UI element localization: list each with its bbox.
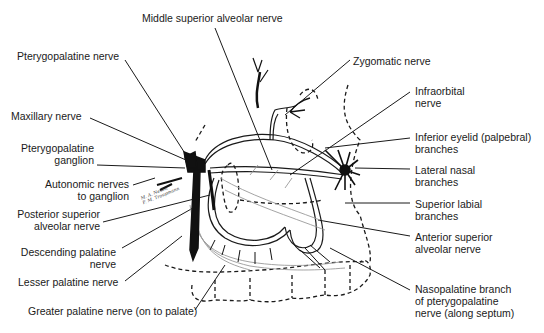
label-line: Lateral nasal — [415, 164, 475, 176]
nerve-trunks — [205, 106, 345, 253]
label-line: Descending palatine — [21, 246, 116, 258]
label-infraorbital-nerve: Infraorbital nerve — [415, 85, 465, 109]
label-line: nerve — [415, 97, 465, 109]
label-greater-palatine-nerve: Greater palatine nerve (on to palate) — [28, 305, 197, 317]
label-line: branches — [415, 210, 482, 222]
label-line: ganglion — [21, 154, 94, 166]
label-line: Anterior superior — [415, 231, 493, 243]
label-descending-palatine-nerve: Descending palatine nerve — [21, 246, 116, 270]
leader-lines — [90, 28, 410, 310]
label-maxillary-nerve: Maxillary nerve — [11, 110, 82, 122]
label-line: alveolar nerve — [415, 243, 493, 255]
label-superior-labial-branches: Superior labial branches — [415, 198, 482, 222]
label-line: Nasopalatine branch — [415, 283, 514, 295]
label-line: to ganglion — [45, 190, 129, 202]
label-line: Pterygopalatine — [21, 142, 94, 154]
label-line: Autonomic nerves — [45, 178, 129, 190]
label-line: branches — [415, 176, 475, 188]
label-line: nerve — [21, 258, 116, 270]
label-lateral-nasal-branches: Lateral nasal branches — [415, 164, 475, 188]
label-line: Superior labial — [415, 198, 482, 210]
label-line: Inferior eyelid (palpebral) — [415, 131, 531, 143]
label-pterygopalatine-nerve: Pterygopalatine nerve — [17, 50, 119, 62]
label-line: Infraorbital — [415, 85, 465, 97]
label-posterior-superior-alveolar-nerve: Posterior superior alveolar nerve — [17, 208, 100, 232]
nerve-branches-dark — [157, 58, 360, 270]
label-line: of pterygopalatine — [415, 295, 514, 307]
label-line: nerve (along septum) — [415, 307, 514, 319]
label-autonomic-nerves: Autonomic nerves to ganglion — [45, 178, 129, 202]
label-line: Posterior superior — [17, 208, 100, 220]
label-anterior-superior-alveolar-nerve: Anterior superior alveolar nerve — [415, 231, 493, 255]
label-nasopalatine-branch: Nasopalatine branch of pterygopalatine n… — [415, 283, 514, 319]
label-line: alveolar nerve — [17, 220, 100, 232]
label-middle-superior-alveolar-nerve: Middle superior alveolar nerve — [142, 12, 283, 24]
label-line: branches — [415, 143, 531, 155]
label-lesser-palatine-nerve: Lesser palatine nerve — [18, 276, 118, 288]
label-pterygopalatine-ganglion: Pterygopalatine ganglion — [21, 142, 94, 166]
label-zygomatic-nerve: Zygomatic nerve — [353, 55, 431, 67]
label-inferior-eyelid-branches: Inferior eyelid (palpebral) branches — [415, 131, 531, 155]
